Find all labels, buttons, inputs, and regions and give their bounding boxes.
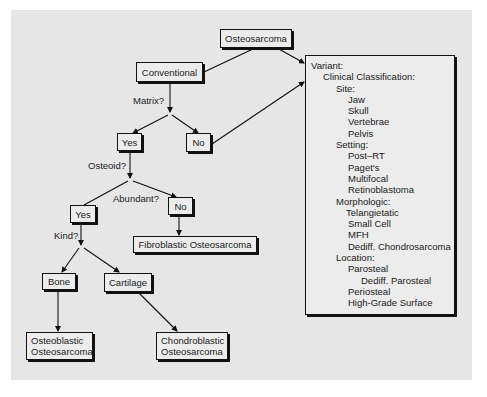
edge-root-conventional xyxy=(204,48,255,72)
edge-cartilage-chondroblastic xyxy=(139,293,177,331)
variant-line: Pelvis xyxy=(306,128,454,139)
edge-kind-bone xyxy=(62,248,79,272)
node-label: Bone xyxy=(48,276,70,287)
node-osteoid-yes: Yes xyxy=(70,205,96,223)
variant-line: Retinoblastoma xyxy=(306,184,454,195)
node-abundant-no: No xyxy=(168,197,193,215)
question-matrix: Matrix? xyxy=(133,95,164,106)
variant-line: Telangietatic xyxy=(306,207,454,218)
variant-line: Setting: xyxy=(306,139,454,150)
node-bone: Bone xyxy=(42,273,76,290)
variant-line: Skull xyxy=(306,105,454,116)
variant-line: Clinical Classification: xyxy=(306,71,454,82)
variant-line: Post–RT xyxy=(306,150,454,161)
variant-line: Site: xyxy=(306,83,454,94)
node-label-line2: Osteosarcoma xyxy=(31,346,93,357)
node-matrix-yes: Yes xyxy=(117,133,142,151)
variant-line: Variant: xyxy=(306,60,454,71)
node-label: Yes xyxy=(122,137,138,148)
edge-matrix-yes xyxy=(133,115,168,133)
edge-kind-cartilage xyxy=(84,248,119,272)
node-osteosarcoma: Osteosarcoma xyxy=(220,29,292,48)
node-osteoblastic-osteosarcoma: Osteoblastic Osteosarcoma xyxy=(26,332,93,360)
variant-line: MFH xyxy=(306,229,454,240)
node-label-line1: Chondroblastic xyxy=(161,335,224,346)
node-label: Osteosarcoma xyxy=(225,33,287,44)
edge-matrix-no xyxy=(172,115,198,133)
node-cartilage: Cartilage xyxy=(104,273,152,292)
variant-line: Periosteal xyxy=(306,286,454,297)
node-fibroblastic-osteosarcoma: Fibroblastic Osteosarcoma xyxy=(133,236,257,253)
variant-line: Location: xyxy=(306,252,454,263)
node-label-line1: Osteoblastic xyxy=(31,335,83,346)
variant-line: Small Cell xyxy=(306,218,454,229)
node-matrix-no: No xyxy=(186,133,211,152)
node-conventional: Conventional xyxy=(136,62,203,82)
variant-line: Vertebrae xyxy=(306,116,454,127)
node-chondroblastic-osteosarcoma: Chondroblastic Osteosarcoma xyxy=(156,332,228,360)
variant-line: High-Grade Surface xyxy=(306,297,454,308)
node-label: No xyxy=(174,201,186,212)
edge-root-variant xyxy=(277,48,304,63)
variant-line: Dediff. Chondrosarcoma xyxy=(306,241,454,252)
variant-line: Morphologic: xyxy=(306,196,454,207)
variant-line: Parosteal xyxy=(306,263,454,274)
node-label: Yes xyxy=(75,209,91,220)
node-label: No xyxy=(192,137,204,148)
question-kind: Kind? xyxy=(54,230,78,241)
node-label: Fibroblastic Osteosarcoma xyxy=(139,239,252,250)
variant-line: Dediff. Parosteal xyxy=(306,275,454,286)
question-abundant: Abundant? xyxy=(113,193,159,204)
node-label-line2: Osteosarcoma xyxy=(161,346,223,357)
variant-line: Multifocal xyxy=(306,173,454,184)
variant-line: Jaw xyxy=(306,94,454,105)
variant-classification-box: Variant:Clinical Classification:Site:Jaw… xyxy=(305,55,455,315)
edge-no-variant xyxy=(212,82,304,144)
question-osteoid: Osteoid? xyxy=(88,160,126,171)
node-label: Conventional xyxy=(142,67,197,78)
variant-line: Paget's xyxy=(306,162,454,173)
node-label: Cartilage xyxy=(109,277,147,288)
